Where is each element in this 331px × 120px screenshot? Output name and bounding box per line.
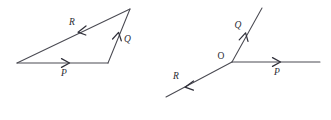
vector-Q-left-label: Q: [124, 34, 131, 44]
vector-R-right-arrowhead: [185, 81, 194, 90]
vector-R-left-label: R: [68, 17, 75, 27]
vector-Q-right: Q: [232, 8, 262, 62]
vector-diagram-canvas: P Q R R: [0, 0, 331, 120]
vector-R-left: R: [17, 9, 130, 63]
vector-diagram-figure: P Q R R: [0, 0, 331, 120]
vector-R-right-label: R: [172, 71, 179, 81]
triangle-vector-addition-group: P Q R: [17, 9, 131, 78]
vector-P-left-label: P: [60, 68, 67, 78]
origin-point-label: O: [218, 51, 225, 61]
vector-Q-right-label: Q: [235, 20, 242, 30]
vector-Q-left: Q: [108, 9, 131, 63]
vector-Q-right-shaft: [232, 8, 262, 62]
vector-R-right: R: [166, 62, 232, 97]
vector-P-left: P: [17, 59, 108, 78]
vector-P-right: P: [232, 58, 320, 77]
concurrent-rays-group: R Q P O: [166, 8, 320, 97]
vector-P-right-label: P: [273, 67, 280, 77]
